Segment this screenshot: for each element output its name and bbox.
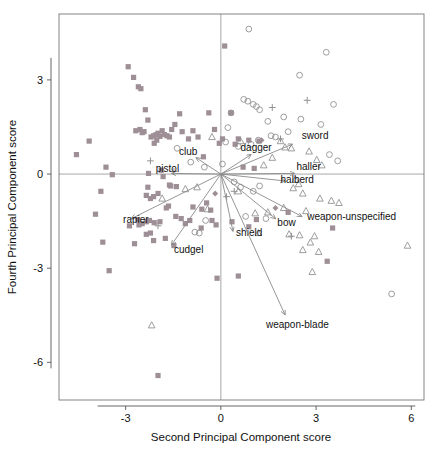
x-axis-title: Second Principal Component score <box>151 431 331 443</box>
point-marker-square <box>190 128 195 133</box>
vector-label: sword <box>302 130 329 141</box>
point-marker-square <box>201 154 206 159</box>
point-marker-square <box>103 165 108 170</box>
y-tick-label: -3 <box>33 262 43 274</box>
point-marker-square <box>204 200 209 205</box>
point-marker-square <box>152 220 157 225</box>
vector-label: rapier <box>123 214 149 225</box>
point-marker-square <box>131 75 136 80</box>
point-marker-square <box>146 171 151 176</box>
point-marker-square <box>199 207 204 212</box>
x-tick-label: -3 <box>121 412 131 424</box>
point-marker-square <box>252 166 257 171</box>
vector-label: club <box>179 146 198 157</box>
point-marker-square <box>161 174 166 179</box>
point-marker-square <box>143 107 148 112</box>
point-marker-square <box>195 134 200 139</box>
y-tick-label: 3 <box>37 74 43 86</box>
point-marker-square <box>179 216 184 221</box>
point-marker-square <box>177 111 182 116</box>
point-marker-square <box>126 64 131 69</box>
point-marker-square <box>155 373 160 378</box>
y-tick-label: 0 <box>37 168 43 180</box>
point-marker-square <box>145 117 150 122</box>
point-marker-square <box>180 129 185 134</box>
point-marker-square <box>222 43 227 48</box>
point-marker-square <box>107 268 112 273</box>
x-tick-label: 6 <box>408 412 414 424</box>
point-marker-square <box>172 122 177 127</box>
vector-label: haller <box>296 161 321 172</box>
vector-label: weapon-blade <box>265 319 329 330</box>
point-marker-square <box>168 183 173 188</box>
point-marker-square <box>173 214 178 219</box>
point-marker-square <box>145 185 150 190</box>
point-marker-square <box>74 152 79 157</box>
y-tick-label: -6 <box>33 356 43 368</box>
point-marker-square <box>214 222 219 227</box>
point-marker-square <box>217 141 222 146</box>
pca-biplot: sworddaggerclubpistolhallerhalberdweapon… <box>0 0 442 456</box>
point-marker-square <box>152 141 157 146</box>
point-marker-square <box>164 205 169 210</box>
y-axis-title: Fourth Principal Component score <box>6 120 18 295</box>
point-marker-square <box>151 194 156 199</box>
point-marker-square <box>212 127 217 132</box>
point-marker-square <box>186 136 191 141</box>
point-marker-square <box>151 238 156 243</box>
point-marker-square <box>167 134 172 139</box>
x-tick-label: 3 <box>313 412 319 424</box>
point-marker-square <box>155 191 160 196</box>
point-marker-square <box>93 212 98 217</box>
x-tick-label: 0 <box>218 412 224 424</box>
point-marker-square <box>325 259 330 264</box>
point-marker-square <box>138 86 143 91</box>
vector-label: bow <box>277 217 296 228</box>
point-marker-square <box>163 236 168 241</box>
point-marker-square <box>254 217 259 222</box>
point-marker-square <box>100 240 105 245</box>
point-marker-square <box>132 241 137 246</box>
point-marker-square <box>133 128 138 133</box>
point-marker-square <box>98 189 103 194</box>
vector-label: cudgel <box>174 244 203 255</box>
chart-root: sworddaggerclubpistolhallerhalberdweapon… <box>0 0 442 456</box>
point-marker-square <box>236 273 241 278</box>
point-marker-square <box>144 232 149 237</box>
point-marker-square <box>206 110 211 115</box>
point-marker-square <box>110 172 115 177</box>
point-marker-square <box>169 127 174 132</box>
point-marker-square <box>190 204 195 209</box>
vector-label: halberd <box>281 174 314 185</box>
vector-label: dagger <box>241 142 273 153</box>
point-marker-square <box>174 184 179 189</box>
point-marker-square <box>214 276 219 281</box>
vector-label: pistol <box>156 163 179 174</box>
point-marker-square <box>87 138 92 143</box>
point-marker-square <box>330 225 335 230</box>
vector-label: weapon-unspecified <box>306 211 396 222</box>
